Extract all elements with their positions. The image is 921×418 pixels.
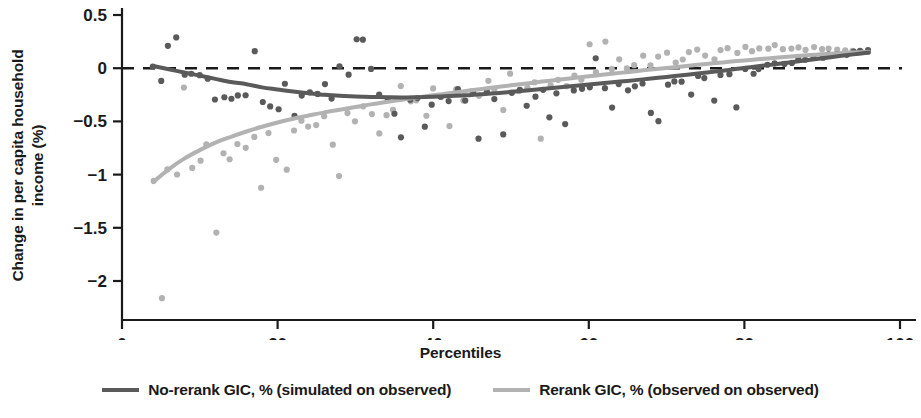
scatter-point <box>593 55 599 61</box>
scatter-point <box>173 34 179 40</box>
scatter-point <box>750 71 756 77</box>
scatter-point <box>158 78 164 84</box>
scatter-point <box>344 110 350 116</box>
scatter-point <box>772 42 778 48</box>
scatter-point <box>267 103 273 109</box>
y-axis-tick-label: 0.5 <box>83 6 107 25</box>
legend-label-no-rerank: No-rerank GIC, % (simulated on observed) <box>148 381 451 399</box>
scatter-point <box>291 127 297 133</box>
scatter-point <box>354 36 360 42</box>
scatter-point <box>780 46 786 52</box>
scatter-point <box>711 98 717 104</box>
scatter-point <box>235 92 241 98</box>
scatter-point <box>702 53 708 59</box>
scatter-point <box>701 75 707 81</box>
legend-item-rerank[interactable]: Rerank GIC, % (observed on observed) <box>493 381 819 399</box>
scatter-point <box>260 99 266 105</box>
scatter-point <box>553 90 559 96</box>
chart-legend: No-rerank GIC, % (simulated on observed)… <box>0 381 921 399</box>
scatter-point <box>273 157 279 163</box>
scatter-point <box>181 84 187 90</box>
scatter-point <box>251 134 257 140</box>
scatter-point <box>360 37 366 43</box>
scatter-point <box>446 98 452 104</box>
scatter-point <box>352 118 358 124</box>
scatter-point <box>423 113 429 119</box>
legend-swatch-rerank <box>493 388 530 392</box>
scatter-point <box>398 134 404 140</box>
x-axis-tick-label: 40 <box>424 335 443 340</box>
scatter-point <box>284 167 290 173</box>
scatter-point <box>305 123 311 129</box>
scatter-point <box>491 96 497 102</box>
scatter-point <box>258 185 264 191</box>
scatter-point <box>655 53 661 59</box>
scatter-point <box>717 47 723 53</box>
scatter-point <box>398 83 404 89</box>
scatter-point <box>609 66 615 72</box>
scatter-point <box>655 118 661 124</box>
scatter-point <box>189 165 195 171</box>
scatter-point <box>734 50 740 56</box>
scatter-point <box>330 142 336 148</box>
scatter-point <box>346 72 352 78</box>
scatter-point <box>688 91 694 97</box>
scatter-point <box>819 46 825 52</box>
x-axis-tick-label: 0 <box>117 335 126 340</box>
scatter-point <box>756 45 762 51</box>
y-axis-tick-label: −1 <box>88 166 107 185</box>
scatter-point <box>825 45 831 51</box>
scatter-point <box>665 82 671 88</box>
scatter-point <box>313 122 319 128</box>
x-axis-tick-label: 80 <box>735 335 754 340</box>
y-axis-tick-label: 0 <box>98 59 107 78</box>
x-axis-tick-label: 20 <box>268 335 287 340</box>
scatter-point <box>546 114 552 120</box>
scatter-point <box>795 44 801 50</box>
scatter-point <box>811 44 817 50</box>
scatter-point <box>532 94 538 100</box>
scatter-point <box>243 92 249 98</box>
scatter-point <box>733 104 739 110</box>
scatter-rerank <box>151 38 872 301</box>
scatter-point <box>664 50 670 56</box>
scatter-point <box>220 150 226 156</box>
x-axis-tick-label: 60 <box>579 335 598 340</box>
y-axis-tick-label: −0.5 <box>73 112 107 131</box>
scatter-point <box>391 111 397 117</box>
scatter-point <box>197 158 203 164</box>
scatter-point <box>788 45 794 51</box>
scatter-point <box>742 44 748 50</box>
scatter-point <box>602 38 608 44</box>
scatter-point <box>252 48 258 54</box>
scatter-point <box>159 295 165 301</box>
scatter-point <box>562 121 568 127</box>
legend-item-no-rerank[interactable]: No-rerank GIC, % (simulated on observed) <box>102 381 451 399</box>
scatter-point <box>383 112 389 118</box>
scatter-point <box>631 62 637 68</box>
scatter-point <box>507 71 513 77</box>
legend-swatch-no-rerank <box>102 388 139 392</box>
scatter-point <box>609 104 615 110</box>
scatter-point <box>322 81 328 87</box>
scatter-point <box>680 56 686 62</box>
scatter-point <box>213 229 219 235</box>
scatter-point <box>538 136 544 142</box>
scatter-point <box>749 48 755 54</box>
scatter-point <box>212 96 218 102</box>
plot-area: 0.50−0.5−1−1.5−2020406080100 <box>0 0 921 340</box>
scatter-point <box>625 87 631 93</box>
scatter-point <box>500 107 506 113</box>
scatter-point <box>368 66 374 72</box>
scatter-point <box>602 85 608 91</box>
scatter-point <box>679 79 685 85</box>
scatter-point <box>640 53 646 59</box>
x-axis-tick-label: 100 <box>886 335 914 340</box>
scatter-point <box>462 97 468 103</box>
scatter-point <box>265 130 271 136</box>
scatter-point <box>673 59 679 65</box>
scatter-point <box>336 173 342 179</box>
scatter-point <box>336 63 342 69</box>
scatter-point <box>430 85 436 91</box>
scatter-point <box>369 111 375 117</box>
